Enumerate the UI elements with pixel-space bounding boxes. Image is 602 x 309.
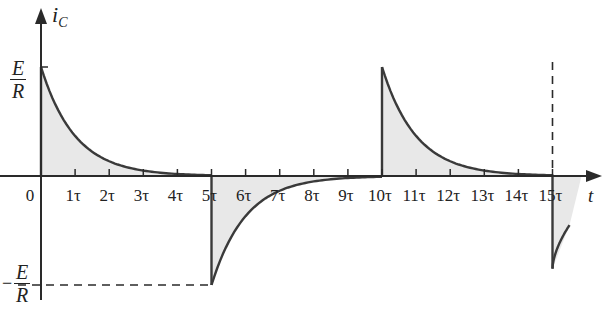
pos-denominator: R bbox=[10, 80, 26, 102]
neg-denominator: R bbox=[14, 284, 30, 306]
pos-numerator: E bbox=[10, 58, 26, 80]
x-tick-label: 9τ bbox=[338, 186, 353, 206]
x-tick-label: 14τ bbox=[504, 186, 528, 206]
chart-container: iC t E R − E R 0 1τ2τ3τ4τ5τ6τ7τ8τ9τ10τ11… bbox=[0, 0, 602, 309]
y-axis-label: iC bbox=[52, 4, 67, 30]
y-axis-arrow-icon bbox=[35, 8, 47, 24]
x-axis-label: t bbox=[588, 186, 593, 205]
shaded-area-0 bbox=[41, 67, 212, 176]
x-tick-label: 4τ bbox=[168, 186, 183, 206]
negative-limit-label: E R bbox=[14, 262, 30, 306]
x-tick-label: 1τ bbox=[65, 186, 80, 206]
shaded-area-2 bbox=[382, 67, 553, 176]
x-tick-label: 13τ bbox=[470, 186, 494, 206]
x-tick-label: 6τ bbox=[236, 186, 251, 206]
y-axis-subscript: C bbox=[58, 15, 67, 30]
x-tick-label: 15τ bbox=[539, 186, 563, 206]
origin-label: 0 bbox=[26, 186, 35, 206]
x-tick-label: 7τ bbox=[270, 186, 285, 206]
x-tick-label: 3τ bbox=[134, 186, 149, 206]
x-tick-label: 12τ bbox=[436, 186, 460, 206]
x-tick-label: 11τ bbox=[402, 186, 425, 206]
x-tick-label: 10τ bbox=[368, 186, 392, 206]
x-tick-label: 2τ bbox=[100, 186, 115, 206]
neg-numerator: E bbox=[14, 262, 30, 284]
x-tick-label: 5τ bbox=[202, 186, 217, 206]
plot-area bbox=[0, 0, 602, 309]
positive-limit-label: E R bbox=[10, 58, 26, 102]
x-tick-label: 8τ bbox=[304, 186, 319, 206]
negative-sign: − bbox=[2, 274, 12, 292]
x-axis-arrow-icon bbox=[586, 170, 602, 182]
